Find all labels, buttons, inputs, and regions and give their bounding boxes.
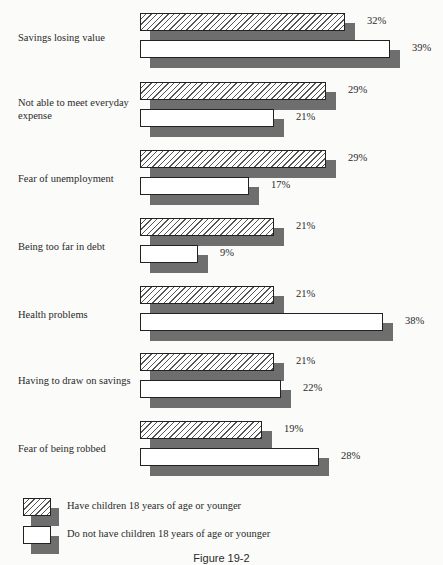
bar-plain	[140, 245, 198, 263]
bar-hatched	[140, 286, 274, 304]
value-label: 21%	[296, 288, 315, 299]
value-label: 19%	[284, 423, 303, 434]
bar-plain	[140, 448, 319, 466]
bar-plain	[140, 40, 390, 58]
bar-hatched	[140, 13, 345, 31]
value-label: 21%	[296, 355, 315, 366]
bar-hatched	[140, 150, 326, 168]
bar-hatched	[140, 218, 274, 236]
bar-plain	[140, 109, 274, 127]
value-label: 38%	[405, 315, 424, 326]
legend-label-plain: Do not have children 18 years of age or …	[67, 528, 270, 539]
category-label: Fear of being robbed	[18, 442, 138, 455]
category-label: Savings losing value	[18, 31, 138, 44]
bar-hatched	[140, 82, 326, 100]
legend-swatch-plain	[23, 526, 51, 544]
value-label: 29%	[348, 152, 367, 163]
value-label: 22%	[303, 382, 322, 393]
bar-hatched	[140, 421, 262, 439]
value-label: 21%	[296, 220, 315, 231]
value-label: 29%	[348, 84, 367, 95]
category-label: Having to draw on savings	[18, 374, 138, 387]
bar-plain	[140, 177, 249, 195]
bar-hatched	[140, 353, 274, 371]
bar-plain	[140, 313, 383, 331]
category-label: Fear of unemployment	[18, 172, 138, 185]
legend-swatch-hatched	[23, 498, 51, 516]
legend-label-hatched: Have children 18 years of age or younger	[67, 500, 241, 511]
category-label: Being too far in debt	[18, 240, 138, 253]
figure-caption: Figure 19-2	[0, 552, 443, 564]
value-label: 28%	[341, 450, 360, 461]
value-label: 9%	[220, 247, 234, 258]
value-label: 17%	[271, 179, 290, 190]
value-label: 39%	[412, 42, 431, 53]
category-label: Not able to meet everyday expense	[18, 96, 138, 122]
value-label: 21%	[296, 111, 315, 122]
bar-plain	[140, 380, 281, 398]
value-label: 32%	[367, 15, 386, 26]
category-label: Health problems	[18, 308, 138, 321]
